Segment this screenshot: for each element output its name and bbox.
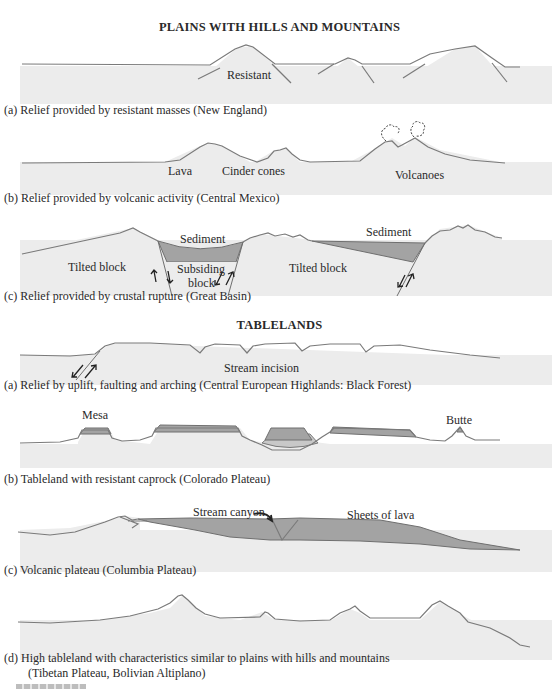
caption-tablelands-b: (b) Tableland with resistant caprock (Co… bbox=[4, 472, 270, 487]
diagram-resistant-caprock: Mesa Butte bbox=[0, 400, 559, 470]
caption-tablelands-d-line1: (d) High tableland with characteristics … bbox=[4, 651, 390, 666]
label-sediment-1: Sediment bbox=[180, 232, 226, 246]
smoke-icon bbox=[382, 122, 425, 141]
figure-label-fragment bbox=[16, 684, 86, 689]
section-title-tablelands: TABLELANDS bbox=[0, 318, 559, 333]
label-stream-canyon: Stream canyon bbox=[193, 505, 265, 519]
label-butte: Butte bbox=[446, 413, 472, 427]
diagram-volcanic-activity: Lava Cinder cones Volcanoes bbox=[0, 115, 559, 195]
label-lava: Lava bbox=[168, 164, 193, 178]
label-block: block bbox=[188, 276, 215, 290]
label-cinder-cones: Cinder cones bbox=[222, 164, 285, 178]
caption-plains-b: (b) Relief provided by volcanic activity… bbox=[4, 191, 280, 206]
label-subsiding: Subsiding bbox=[177, 262, 225, 276]
label-stream-incision: Stream incision bbox=[224, 361, 299, 375]
label-tilted-block-2: Tilted block bbox=[289, 261, 347, 275]
section-title-plains: PLAINS WITH HILLS AND MOUNTAINS bbox=[0, 20, 559, 35]
caption-tablelands-d-line2: (Tibetan Plateau, Bolivian Altiplano) bbox=[28, 666, 206, 681]
caption-plains-c: (c) Relief provided by crustal rupture (… bbox=[4, 289, 251, 304]
caption-tablelands-a: (a) Relief by uplift, faulting and archi… bbox=[4, 378, 411, 393]
label-sheets-of-lava: Sheets of lava bbox=[347, 508, 415, 522]
label-resistant: Resistant bbox=[227, 68, 272, 82]
label-volcanoes: Volcanoes bbox=[395, 168, 444, 182]
label-mesa: Mesa bbox=[82, 408, 109, 422]
caption-tablelands-c: (c) Volcanic plateau (Columbia Plateau) bbox=[4, 563, 196, 578]
label-tilted-block-1: Tilted block bbox=[68, 260, 126, 274]
label-sediment-2: Sediment bbox=[366, 225, 412, 239]
diagram-high-tableland bbox=[0, 590, 559, 660]
